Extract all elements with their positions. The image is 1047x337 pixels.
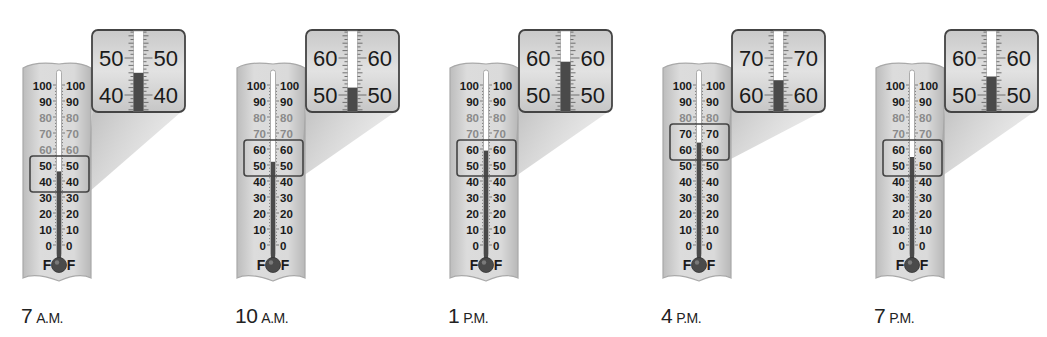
inset-label-right: 50 bbox=[581, 83, 605, 108]
scale-label-left: 60 bbox=[892, 144, 905, 156]
thermometer-unit: 1001009090808070706060505040403030202010… bbox=[853, 0, 1047, 337]
scale-label-right: 20 bbox=[280, 208, 293, 220]
scale-label-right: 80 bbox=[493, 112, 506, 124]
inset-label-left: 50 bbox=[313, 83, 337, 108]
scale-label-right: 40 bbox=[493, 176, 506, 188]
scale-label-left: 80 bbox=[892, 112, 905, 124]
scale-label-right: 100 bbox=[493, 80, 512, 92]
scale-label-left: 70 bbox=[679, 128, 692, 140]
scale-label-left: 50 bbox=[39, 160, 52, 172]
inset-label-right: 60 bbox=[368, 46, 392, 71]
thermometer-svg: 1001009090808070706060505040403030202010… bbox=[427, 0, 627, 300]
inset-label-right: 70 bbox=[794, 46, 818, 71]
thermometer-svg: 1001009090808070706060505040403030202010… bbox=[640, 0, 840, 300]
scale-label-left: 10 bbox=[466, 224, 479, 236]
unit-label-fahrenheit: F bbox=[257, 257, 266, 273]
scale-label-left: 90 bbox=[466, 96, 479, 108]
scale-label-right: 80 bbox=[706, 112, 719, 124]
scale-label-right: 20 bbox=[66, 208, 79, 220]
scale-label-right: 60 bbox=[493, 144, 506, 156]
scale-label-right: 50 bbox=[280, 160, 293, 172]
scale-label-right: 90 bbox=[493, 96, 506, 108]
inset-label-left: 60 bbox=[526, 46, 550, 71]
scale-label-left: 0 bbox=[46, 240, 52, 252]
scale-label-left: 0 bbox=[899, 240, 905, 252]
thermometer-svg: 1001009090808070706060505040403030202010… bbox=[214, 0, 414, 300]
magnified-inset: 60605050 bbox=[306, 30, 399, 112]
inset-label-left: 70 bbox=[739, 46, 763, 71]
unit-label-fahrenheit: F bbox=[67, 257, 76, 273]
thermometer-bulb bbox=[905, 258, 920, 273]
scale-label-left: 60 bbox=[253, 144, 266, 156]
magnified-inset: 50504040 bbox=[92, 30, 185, 112]
inset-label-right: 60 bbox=[794, 83, 818, 108]
thermometer-unit: 1001009090808070706060505040403030202010… bbox=[427, 0, 627, 337]
time-label: 7A.M. bbox=[21, 304, 63, 328]
time-label: 7P.M. bbox=[874, 304, 914, 328]
time-meridiem: A.M. bbox=[261, 310, 288, 326]
inset-label-left: 50 bbox=[99, 46, 123, 71]
inset-label-left: 50 bbox=[526, 83, 550, 108]
scale-label-right: 30 bbox=[706, 192, 719, 204]
thermometer-svg: 1001009090808070706060505040403030202010… bbox=[0, 0, 200, 300]
scale-label-left: 20 bbox=[466, 208, 479, 220]
inset-mercury bbox=[348, 88, 358, 111]
unit-label-fahrenheit: F bbox=[494, 257, 503, 273]
scale-label-right: 40 bbox=[919, 176, 932, 188]
inset-mercury bbox=[774, 80, 784, 111]
scale-label-left: 70 bbox=[253, 128, 266, 140]
scale-label-left: 40 bbox=[466, 176, 479, 188]
scale-label-left: 10 bbox=[39, 224, 52, 236]
scale-label-right: 70 bbox=[280, 128, 293, 140]
scale-label-right: 50 bbox=[66, 160, 79, 172]
scale-label-left: 30 bbox=[253, 192, 266, 204]
scale-label-right: 30 bbox=[919, 192, 932, 204]
scale-label-left: 50 bbox=[253, 160, 266, 172]
scale-label-right: 60 bbox=[280, 144, 293, 156]
scale-label-right: 80 bbox=[280, 112, 293, 124]
scale-label-right: 30 bbox=[493, 192, 506, 204]
scale-label-right: 20 bbox=[919, 208, 932, 220]
scale-label-left: 80 bbox=[253, 112, 266, 124]
unit-label-fahrenheit: F bbox=[707, 257, 716, 273]
scale-label-right: 70 bbox=[919, 128, 932, 140]
thermometer-bulb bbox=[266, 258, 281, 273]
unit-label-fahrenheit: F bbox=[920, 257, 929, 273]
time-label: 1P.M. bbox=[448, 304, 488, 328]
scale-label-right: 0 bbox=[493, 240, 499, 252]
scale-label-left: 40 bbox=[679, 176, 692, 188]
scale-label-left: 30 bbox=[892, 192, 905, 204]
scale-label-right: 30 bbox=[66, 192, 79, 204]
inset-label-right: 50 bbox=[154, 46, 178, 71]
scale-label-right: 40 bbox=[66, 176, 79, 188]
scale-label-left: 100 bbox=[247, 80, 266, 92]
scale-label-right: 10 bbox=[280, 224, 293, 236]
scale-label-right: 10 bbox=[919, 224, 932, 236]
thermometer-bulb bbox=[52, 258, 67, 273]
time-hour: 7 bbox=[21, 304, 32, 327]
scale-label-right: 70 bbox=[66, 128, 79, 140]
thermometer-unit: 1001009090808070706060505040403030202010… bbox=[0, 0, 200, 337]
time-meridiem: P.M. bbox=[676, 310, 701, 326]
scale-label-right: 20 bbox=[706, 208, 719, 220]
scale-label-right: 70 bbox=[706, 128, 719, 140]
mercury-column bbox=[910, 157, 914, 259]
scale-label-left: 70 bbox=[892, 128, 905, 140]
scale-label-left: 80 bbox=[39, 112, 52, 124]
scale-label-left: 60 bbox=[466, 144, 479, 156]
magnified-inset: 70706060 bbox=[732, 30, 825, 112]
scale-label-right: 80 bbox=[919, 112, 932, 124]
scale-label-left: 90 bbox=[39, 96, 52, 108]
scale-label-left: 90 bbox=[892, 96, 905, 108]
scale-label-left: 60 bbox=[679, 144, 692, 156]
magnified-inset: 60605050 bbox=[519, 30, 612, 112]
time-hour: 7 bbox=[874, 304, 885, 327]
scale-label-right: 50 bbox=[706, 160, 719, 172]
scale-label-right: 90 bbox=[706, 96, 719, 108]
inset-label-right: 60 bbox=[581, 46, 605, 71]
unit-label-fahrenheit: F bbox=[43, 257, 52, 273]
unit-label-fahrenheit: F bbox=[281, 257, 290, 273]
scale-label-right: 40 bbox=[706, 176, 719, 188]
scale-label-right: 70 bbox=[493, 128, 506, 140]
mercury-column bbox=[484, 151, 488, 259]
